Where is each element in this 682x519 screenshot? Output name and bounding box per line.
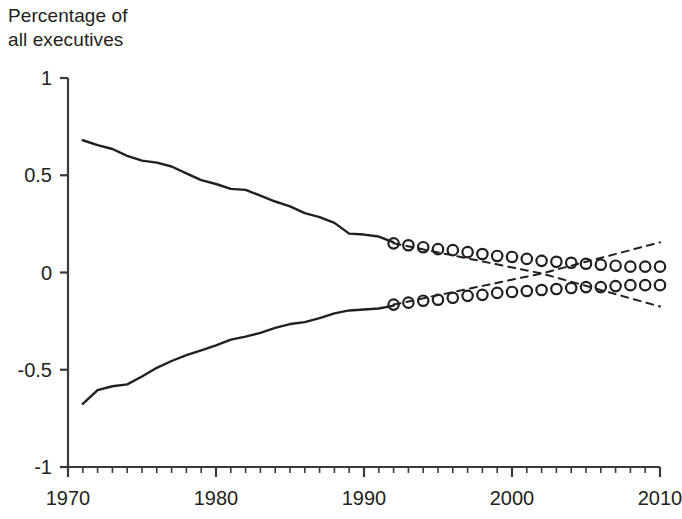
y-tick-label: 1 (0, 67, 52, 90)
chart-data-marker (551, 284, 561, 294)
chart-axes (60, 78, 660, 477)
y-tick-label: 0.5 (0, 164, 52, 187)
x-tick-label: 1990 (324, 487, 404, 510)
chart-data-marker (522, 254, 532, 264)
chart-data-marker (492, 288, 502, 298)
chart-plot-area (0, 0, 682, 519)
chart-data-marker (507, 252, 517, 262)
chart-data-marker (640, 280, 650, 290)
chart-data-marker (625, 261, 635, 271)
chart-data-marker (403, 240, 413, 250)
chart-data-marker (403, 297, 413, 307)
chart-data-marker (536, 285, 546, 295)
chart-data-marker (625, 280, 635, 290)
y-tick-label: 0 (0, 261, 52, 284)
chart-data-line (83, 140, 394, 242)
chart-series-layer (83, 140, 665, 404)
x-tick-label: 1970 (28, 487, 108, 510)
chart-data-marker (418, 296, 428, 306)
chart-data-marker (492, 251, 502, 261)
chart-y-axis-title: Percentage of all executives (8, 4, 128, 52)
x-tick-label: 2000 (472, 487, 552, 510)
chart-data-marker (462, 291, 472, 301)
chart-data-marker (477, 249, 487, 259)
chart-data-marker (507, 287, 517, 297)
y-tick-label: -0.5 (0, 358, 52, 381)
chart-data-marker (655, 261, 665, 271)
chart-data-marker (536, 256, 546, 266)
chart-data-marker (551, 257, 561, 267)
chart-figure: Percentage of all executives 10.50-0.5-1… (0, 0, 682, 519)
y-tick-label: -1 (0, 456, 52, 479)
chart-data-marker (596, 260, 606, 270)
chart-data-marker (462, 247, 472, 257)
chart-data-marker (522, 286, 532, 296)
x-tick-label: 2010 (620, 487, 682, 510)
chart-data-marker (477, 290, 487, 300)
chart-data-marker (566, 283, 576, 293)
chart-data-marker (448, 293, 458, 303)
chart-data-marker (610, 281, 620, 291)
chart-data-line (83, 306, 394, 404)
chart-data-marker (640, 261, 650, 271)
chart-data-marker (418, 242, 428, 252)
x-tick-label: 1980 (176, 487, 256, 510)
chart-data-marker (655, 280, 665, 290)
chart-data-marker (610, 260, 620, 270)
